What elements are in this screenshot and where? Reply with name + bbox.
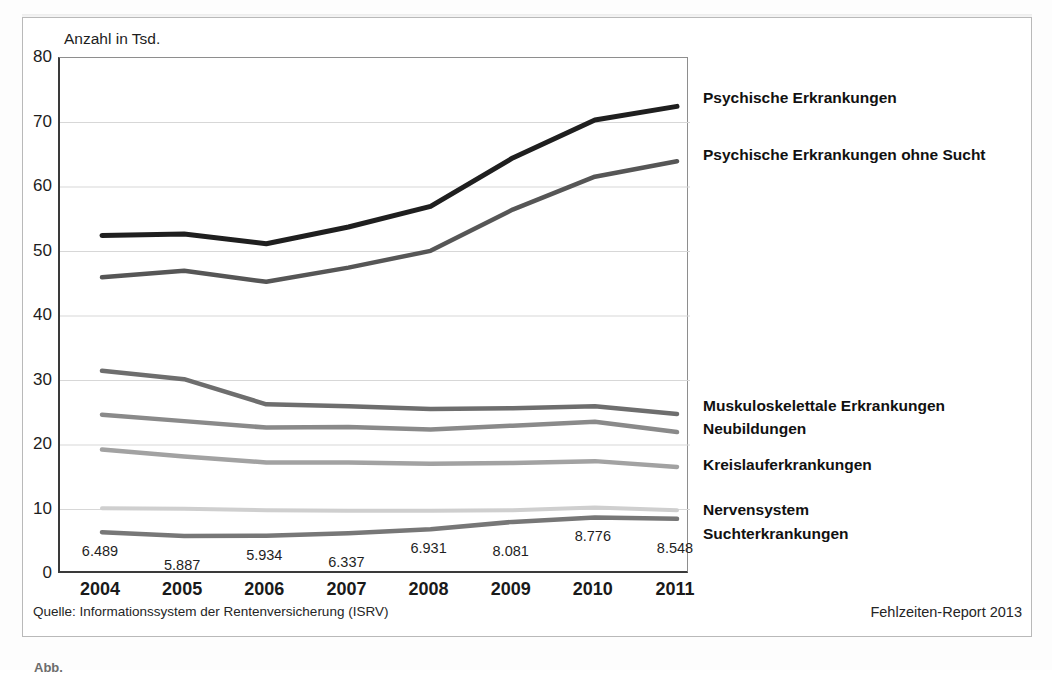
y-axis-ticks: 01020304050607080 <box>0 0 52 670</box>
y-tick-label: 20 <box>8 434 52 454</box>
y-tick-label: 80 <box>8 47 52 67</box>
y-tick-label: 40 <box>8 305 52 325</box>
data-point-label: 6.489 <box>65 543 135 559</box>
data-point-label: 8.081 <box>476 543 546 559</box>
legend-label: Neubildungen <box>703 419 806 439</box>
data-point-label: 6.931 <box>394 540 464 556</box>
series-line <box>102 106 677 243</box>
series-line <box>102 161 677 282</box>
y-tick-label: 50 <box>8 241 52 261</box>
data-point-label: 6.337 <box>311 554 381 570</box>
data-point-label: 8.776 <box>558 528 628 544</box>
y-tick-label: 0 <box>8 563 52 583</box>
y-tick-label: 60 <box>8 176 52 196</box>
data-point-label: 5.934 <box>229 547 299 563</box>
data-point-label: 5.887 <box>147 557 217 573</box>
series-line <box>102 371 677 414</box>
x-tick-label: 2010 <box>558 579 628 600</box>
series-line <box>102 508 677 511</box>
x-tick-label: 2008 <box>394 579 464 600</box>
y-axis-title: Anzahl in Tsd. <box>64 30 160 48</box>
series-line <box>102 450 677 467</box>
line-chart-svg <box>60 58 690 574</box>
series-line <box>102 415 677 432</box>
y-tick-label: 30 <box>8 370 52 390</box>
legend-label: Nervensystem <box>703 500 809 520</box>
plot-area <box>58 57 688 573</box>
data-point-label: 8.548 <box>640 540 710 556</box>
x-tick-label: 2009 <box>476 579 546 600</box>
legend-label: Psychische Erkrankungen ohne Sucht <box>703 145 986 165</box>
x-tick-label: 2011 <box>640 579 710 600</box>
figure-caption: Abb. <box>34 660 63 675</box>
x-tick-label: 2006 <box>229 579 299 600</box>
source-note: Quelle: Informationssystem der Rentenver… <box>33 604 388 619</box>
y-tick-label: 10 <box>8 499 52 519</box>
x-tick-label: 2004 <box>65 579 135 600</box>
legend-label: Kreislauferkrankungen <box>703 455 872 475</box>
legend-label: Psychische Erkrankungen <box>703 88 897 108</box>
x-tick-label: 2005 <box>147 579 217 600</box>
legend-label: Muskuloskelettale Erkrankungen <box>703 396 945 416</box>
legend-label: Suchterkrankungen <box>703 524 849 544</box>
y-tick-label: 70 <box>8 112 52 132</box>
x-tick-label: 2007 <box>311 579 381 600</box>
report-note: Fehlzeiten-Report 2013 <box>870 604 1022 620</box>
